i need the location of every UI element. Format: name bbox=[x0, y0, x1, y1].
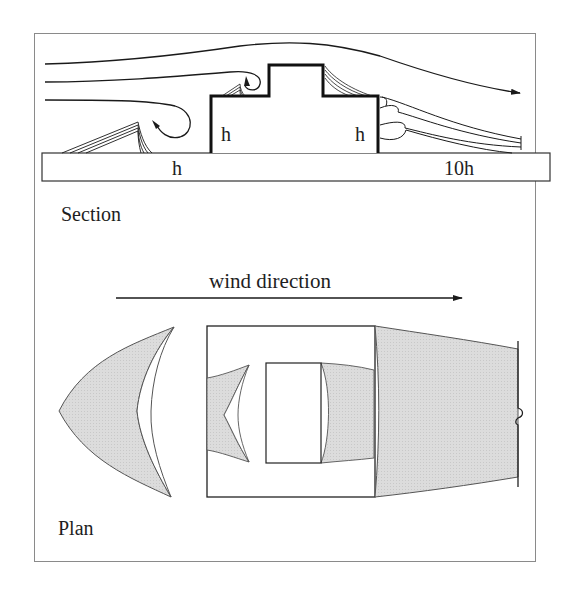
downstream-wake-shaded bbox=[375, 326, 518, 497]
eddy-arrow-upper bbox=[244, 76, 250, 86]
plan-building bbox=[266, 363, 321, 463]
diagram-canvas: h h h 10h Section wind direction Plan bbox=[0, 0, 577, 593]
plan-title: Plan bbox=[58, 518, 94, 538]
label-building-left-h: h bbox=[221, 124, 231, 144]
diagram-drawing bbox=[0, 0, 577, 593]
wind-direction-label: wind direction bbox=[209, 271, 331, 292]
label-downwind-distance: 10h bbox=[444, 158, 474, 178]
building-section bbox=[211, 65, 378, 153]
streamline-lower bbox=[45, 100, 190, 138]
upwind-vortex-layers bbox=[62, 122, 152, 153]
streamline-middle bbox=[45, 72, 260, 90]
leeward-roof-layers bbox=[325, 66, 372, 96]
roof-vortex-layers bbox=[222, 84, 245, 96]
inner-wake-shaded bbox=[321, 363, 374, 463]
label-upwind-distance: h bbox=[172, 158, 182, 178]
wake-layers bbox=[380, 97, 521, 153]
label-building-right-h: h bbox=[355, 124, 365, 144]
section-title: Section bbox=[61, 204, 121, 224]
plan-view bbox=[59, 298, 523, 497]
